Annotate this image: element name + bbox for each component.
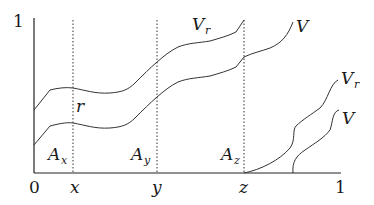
svg-text:z: z xyxy=(233,154,240,167)
svg-text:r: r xyxy=(205,24,211,37)
label-a-x: A x xyxy=(46,144,68,167)
y-axis-top-label: 1 xyxy=(13,11,24,31)
label-vr-right: V r xyxy=(341,68,360,91)
curve-vr-right xyxy=(244,80,338,173)
curve-vr-upper xyxy=(34,20,244,110)
tick-label-z: z xyxy=(238,177,249,197)
tick-label-y: y xyxy=(151,177,162,197)
origin-label: 0 xyxy=(29,177,40,197)
svg-text:V: V xyxy=(192,14,206,34)
svg-text:V: V xyxy=(341,68,355,88)
label-v-upper: V xyxy=(296,16,310,36)
label-a-z: A z xyxy=(219,144,240,167)
tick-label-x: x xyxy=(70,177,80,197)
label-r: r xyxy=(76,96,85,116)
svg-text:A: A xyxy=(46,144,60,164)
x-axis-end-label: 1 xyxy=(335,177,346,197)
diagram-canvas: 1 0 x y z 1 r A x A y A z V r V V r V xyxy=(0,0,374,205)
label-a-y: A y xyxy=(129,144,151,167)
svg-text:V: V xyxy=(342,108,356,128)
svg-text:V: V xyxy=(296,16,310,36)
svg-text:r: r xyxy=(354,78,360,91)
svg-text:x: x xyxy=(61,154,68,167)
svg-text:A: A xyxy=(129,144,143,164)
svg-text:y: y xyxy=(143,154,151,167)
curve-v-right xyxy=(293,110,339,173)
label-v-right: V xyxy=(342,108,356,128)
svg-text:A: A xyxy=(219,144,233,164)
label-vr-upper: V r xyxy=(192,14,211,37)
